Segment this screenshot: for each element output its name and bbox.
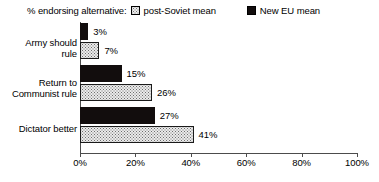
category-label-dictator-line1: Dictator better [0, 123, 77, 134]
category-label-army-line1: Army should [0, 37, 77, 48]
x-axis-tick-label: 40% [181, 157, 200, 168]
x-axis-tick-label: 0% [73, 157, 87, 168]
legend-entry-post-soviet: post-Soviet mean [131, 5, 216, 16]
bar-new-eu [80, 23, 88, 40]
x-axis-tick-label: 20% [126, 157, 145, 168]
bar-group: 15%26% [80, 65, 357, 103]
chart-legend: % endorsing alternative: post-Soviet mea… [0, 3, 379, 17]
legend-title: % endorsing alternative: [27, 5, 127, 16]
category-label-communist-line1: Return to [0, 77, 77, 88]
category-label-army: Army should rule [0, 37, 77, 59]
bar-post-soviet [80, 126, 194, 143]
legend-label-new-eu: New EU mean [260, 5, 320, 16]
x-axis-tick-label: 60% [237, 157, 256, 168]
bar-post-soviet [80, 42, 99, 59]
category-axis-labels: Army should rule Return to Communist rul… [0, 22, 77, 153]
legend-swatch-solid-icon [247, 6, 256, 15]
legend-label-post-soviet: post-Soviet mean [144, 5, 216, 16]
x-axis-tick-label: 80% [292, 157, 311, 168]
bar-new-eu [80, 65, 122, 82]
bar-post-soviet [80, 84, 152, 101]
legend-entry-new-eu: New EU mean [247, 5, 320, 16]
category-label-dictator: Dictator better [0, 123, 77, 134]
x-axis-tick-labels: 0%20%40%60%80%100% [0, 157, 379, 171]
plot-area: 3%7%15%26%27%41% [80, 22, 357, 153]
bar-value-label: 27% [160, 107, 179, 124]
x-axis-tick-label: 100% [345, 157, 369, 168]
bar-value-label: 3% [93, 23, 107, 40]
bar-chart: % endorsing alternative: post-Soviet mea… [0, 0, 379, 182]
category-label-communist: Return to Communist rule [0, 77, 77, 99]
bar-value-label: 7% [104, 42, 118, 59]
bar-group: 27%41% [80, 107, 357, 145]
category-label-army-line2: rule [0, 48, 77, 59]
x-axis-line [80, 153, 357, 154]
bar-value-label: 15% [127, 65, 146, 82]
bar-value-label: 41% [199, 126, 218, 143]
category-label-communist-line2: Communist rule [0, 88, 77, 99]
bar-new-eu [80, 107, 155, 124]
bar-group: 3%7% [80, 23, 357, 61]
bar-value-label: 26% [157, 84, 176, 101]
legend-swatch-dotted-icon [131, 6, 140, 15]
